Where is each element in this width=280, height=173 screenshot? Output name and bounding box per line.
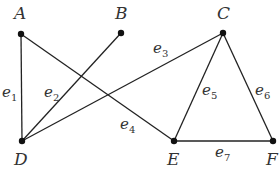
edge-e6 xyxy=(223,33,273,141)
vertex-label-A: A xyxy=(12,3,26,23)
edge-label-e3: e3 xyxy=(153,39,168,59)
vertex-label-D: D xyxy=(13,149,28,169)
edge-label-e5: e5 xyxy=(202,81,217,101)
vertex-label-E: E xyxy=(166,149,180,169)
edge-label-e4: e4 xyxy=(120,115,135,135)
vertex-B xyxy=(118,30,124,36)
vertex-F xyxy=(270,138,276,144)
edge-label-e1: e1 xyxy=(2,83,17,103)
edge-e2 xyxy=(22,33,121,141)
vertex-A xyxy=(18,31,24,37)
edges-layer xyxy=(21,33,273,141)
edge-label-e2: e2 xyxy=(44,83,59,103)
vertex-label-C: C xyxy=(217,3,230,23)
vertex-C xyxy=(220,30,226,36)
vertex-D xyxy=(19,138,25,144)
nodes-layer xyxy=(18,30,276,144)
labels-layer: e1e2e3e4e5e6e7ABCDEF xyxy=(2,3,279,169)
edge-label-e7: e7 xyxy=(215,143,230,163)
edge-label-e6: e6 xyxy=(255,81,270,101)
vertex-E xyxy=(171,138,177,144)
vertex-label-B: B xyxy=(114,3,128,23)
vertex-label-F: F xyxy=(265,149,279,169)
edge-e1 xyxy=(21,34,22,141)
edge-e5 xyxy=(174,33,223,141)
graph-diagram: e1e2e3e4e5e6e7ABCDEF xyxy=(0,0,280,173)
